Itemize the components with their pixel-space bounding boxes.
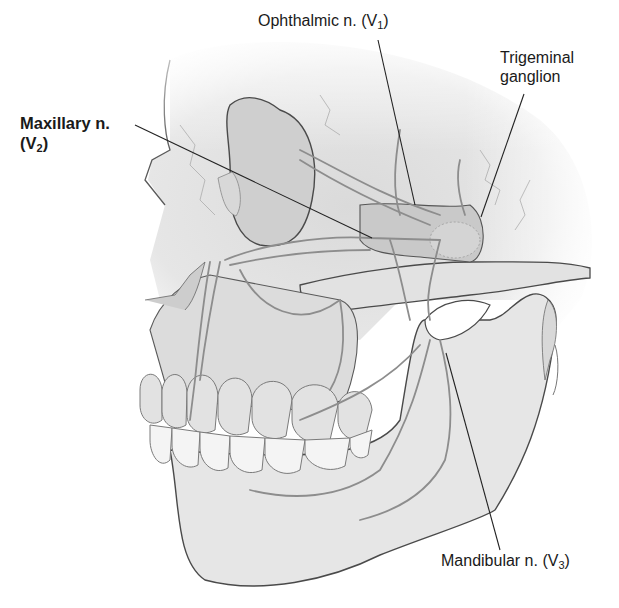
label-maxillary-line1: Maxillary n. [20,113,110,133]
label-maxillary-nerve: Maxillary n. (V2) [20,113,110,153]
label-mandibular-text: Mandibular n. (V [441,552,558,569]
label-ophthalmic-close: ) [383,12,388,29]
label-mandibular-nerve: Mandibular n. (V3) [441,551,570,571]
label-mandibular-close: ) [565,552,570,569]
label-trigeminal-ganglion: Trigeminal ganglion [500,48,574,86]
trigeminal-nerve-figure: Ophthalmic n. (V1) Trigeminal ganglion M… [0,0,619,608]
label-maxillary-main: (V [20,134,37,152]
label-maxillary-line2: (V2) [20,133,110,153]
label-ophthalmic-text: Ophthalmic n. (V [258,12,377,29]
label-trigeminal-line2: ganglion [500,67,574,86]
label-trigeminal-line1: Trigeminal [500,48,574,67]
label-ophthalmic-nerve: Ophthalmic n. (V1) [258,11,389,31]
skull-illustration [0,0,619,608]
label-maxillary-close: ) [43,134,49,152]
